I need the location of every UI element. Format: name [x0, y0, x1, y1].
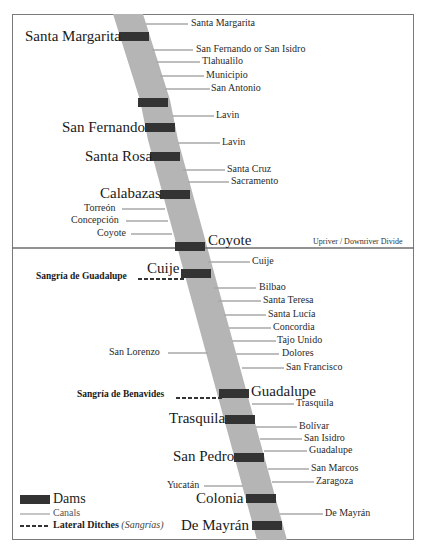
- legend-lateral-ditches-text: Lateral Ditches: [53, 519, 119, 530]
- canal-label: Concordia: [273, 322, 315, 332]
- dam-label-colonia: Colonia: [196, 491, 244, 506]
- canal-label: San Fernando or San Isidro: [196, 44, 305, 54]
- canal-label: Concepción: [71, 215, 119, 225]
- canal-label: Bilbao: [259, 282, 286, 292]
- dam-label-santa-rosa: Santa Rosa: [85, 149, 152, 164]
- canal-label: Santa Teresa: [263, 295, 313, 305]
- canal-label: Santa Cruz: [227, 164, 271, 174]
- canal-label: Dolores: [282, 348, 314, 358]
- canal-label: De Mayrán: [325, 508, 370, 518]
- dam-label-coyote: Coyote: [208, 233, 251, 248]
- sangria-label-guadalupe: Sangría de Guadalupe: [36, 272, 127, 282]
- canal-label: Trasquila: [296, 398, 333, 408]
- dam-label-san-pedro: San Pedro: [173, 449, 234, 464]
- canal-label: Tlahualilo: [202, 56, 243, 66]
- dam-label-cuije: Cuije: [147, 261, 180, 276]
- canal-label: Santa Lucía: [268, 309, 315, 319]
- legend-sangrias-note: (Sangrías): [121, 519, 163, 530]
- legend-dams-label: Dams: [53, 492, 86, 506]
- canal-label: Torreón: [84, 203, 116, 213]
- legend-graphics: [20, 495, 50, 526]
- canal-label: San Lorenzo: [109, 347, 160, 357]
- legend-lateral-ditches-label: Lateral Ditches (Sangrías): [53, 520, 164, 530]
- canal-label: Zaragoza: [316, 476, 353, 486]
- canal-label: Municipio: [206, 70, 248, 80]
- canal-label: San Isidro: [304, 433, 345, 443]
- canal-label: Coyote: [97, 228, 126, 238]
- canal-label: Yucatán: [167, 480, 199, 490]
- dam-label-calabazas: Calabazas: [100, 186, 161, 201]
- dam-label-san-fernando: San Fernando: [62, 120, 145, 135]
- canal-label: Guadalupe: [309, 445, 352, 455]
- canal-label: Bolívar: [299, 421, 329, 431]
- canal-label: Lavin: [216, 110, 239, 120]
- canal-label: San Antonio: [211, 83, 261, 93]
- dam-label-de-mayran: De Mayrán: [181, 518, 249, 533]
- divide-label: Upriver / Downriver Divide: [313, 238, 403, 246]
- canal-label: Cuije: [252, 256, 274, 266]
- sangria-label-benavides: Sangría de Benavides: [77, 390, 164, 400]
- canal-label: San Francisco: [286, 362, 342, 372]
- canal-label: Sacramento: [231, 176, 278, 186]
- dam-label-santa-margarita: Santa Margarita: [25, 29, 121, 44]
- dam-label-trasquila: Trasquila: [169, 411, 225, 426]
- canal-system-diagram: Santa Margarita San Fernando Santa Rosa …: [0, 0, 426, 553]
- canal-label: Lavin: [222, 137, 245, 147]
- canal-label: Santa Margarita: [191, 18, 255, 28]
- canal-label: Tajo Unido: [277, 335, 322, 345]
- legend-canals-label: Canals: [53, 508, 80, 518]
- canal-label: San Marcos: [311, 463, 359, 473]
